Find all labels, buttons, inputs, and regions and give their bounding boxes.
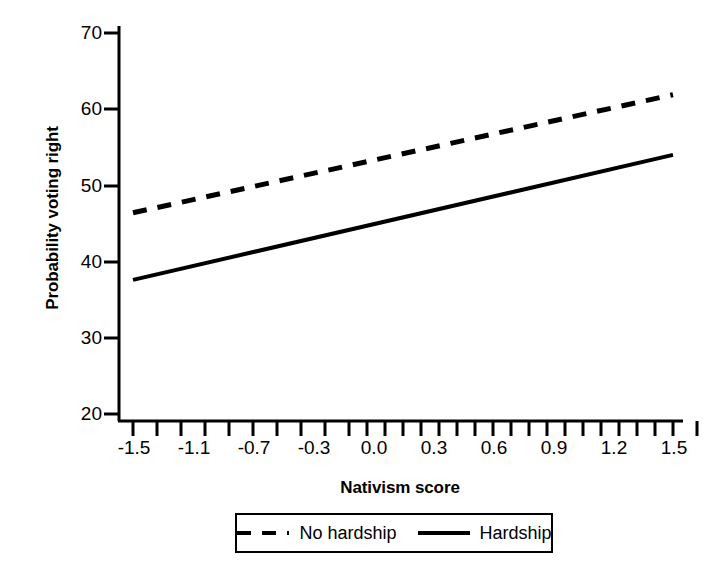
legend-entry-no-hardship: No hardship bbox=[236, 524, 396, 542]
chart-figure: Probability voting right 70 60 50 40 30 … bbox=[0, 0, 715, 586]
legend-label: No hardship bbox=[299, 524, 396, 542]
x-axis-tick-labels: -1.5 -1.1 -0.7 -0.3 0.0 0.3 0.6 0.9 1.2 … bbox=[0, 0, 715, 586]
legend-swatch-solid-icon bbox=[417, 527, 471, 539]
chart-legend: No hardship Hardship bbox=[235, 513, 553, 553]
legend-label: Hardship bbox=[480, 524, 552, 542]
x-axis-title: Nativism score bbox=[0, 478, 715, 498]
x-tick-label: 1.5 bbox=[639, 438, 709, 457]
legend-swatch-dashed-icon bbox=[236, 527, 290, 539]
legend-entry-hardship: Hardship bbox=[417, 524, 552, 542]
